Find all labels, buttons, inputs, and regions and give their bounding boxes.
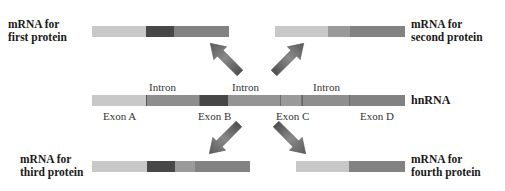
arrows-layer	[0, 0, 505, 191]
arrow-up-right-icon	[268, 37, 310, 79]
arrow-down-right-icon	[270, 118, 312, 160]
arrow-up-left-icon	[204, 37, 246, 79]
arrow-down-left-icon	[203, 118, 245, 160]
